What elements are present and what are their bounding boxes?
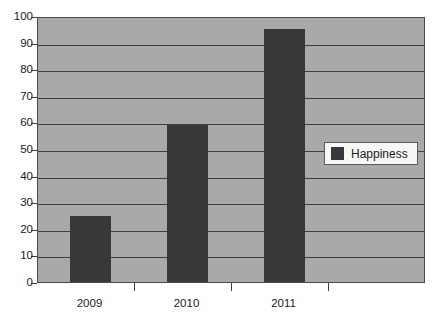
gridline bbox=[38, 204, 424, 205]
bar bbox=[70, 216, 111, 283]
x-axis-tick bbox=[231, 283, 232, 291]
legend-label-happiness: Happiness bbox=[351, 148, 408, 160]
y-axis-tick-label: 10 bbox=[3, 251, 33, 263]
y-axis-tick-label: 90 bbox=[3, 38, 33, 50]
y-axis-tick-label: 20 bbox=[3, 224, 33, 236]
x-axis: 200920102011 bbox=[37, 283, 425, 321]
gridline bbox=[38, 45, 424, 46]
y-axis-tick-label: 50 bbox=[3, 144, 33, 156]
bar-chart: 0102030405060708090100 200920102011 Happ… bbox=[0, 0, 436, 321]
x-axis-tick bbox=[134, 283, 135, 291]
gridline bbox=[38, 124, 424, 125]
y-axis-tick-label: 60 bbox=[3, 118, 33, 130]
x-axis-category-label: 2009 bbox=[77, 297, 103, 309]
y-axis-tick-label: 80 bbox=[3, 64, 33, 76]
chart-legend: Happiness bbox=[324, 142, 418, 165]
y-axis-tick-label: 30 bbox=[3, 197, 33, 209]
x-axis-category-label: 2011 bbox=[271, 297, 296, 309]
legend-swatch-happiness bbox=[331, 147, 344, 160]
gridline bbox=[38, 71, 424, 72]
y-axis-tick-label: 100 bbox=[3, 11, 33, 23]
y-axis-tick-label: 70 bbox=[3, 91, 33, 103]
gridline bbox=[38, 178, 424, 179]
y-axis-tick-label: 0 bbox=[3, 277, 33, 289]
x-axis-tick bbox=[328, 283, 329, 291]
gridline bbox=[38, 98, 424, 99]
y-axis-labels: 0102030405060708090100 bbox=[0, 17, 33, 283]
x-axis-category-label: 2010 bbox=[174, 297, 200, 309]
bar bbox=[264, 29, 305, 282]
y-axis-tick-label: 40 bbox=[3, 171, 33, 183]
bar bbox=[167, 125, 208, 282]
